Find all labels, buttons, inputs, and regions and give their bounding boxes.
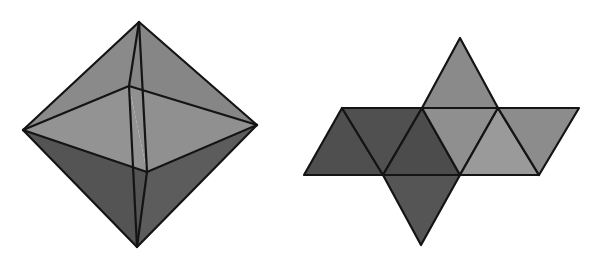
net-top-triangle bbox=[422, 38, 498, 108]
octahedron-solid bbox=[23, 22, 257, 247]
octahedron-figure bbox=[0, 0, 594, 260]
net-bottom-triangle bbox=[383, 175, 460, 245]
figure-canvas bbox=[0, 0, 594, 260]
octahedron-net bbox=[304, 38, 579, 245]
